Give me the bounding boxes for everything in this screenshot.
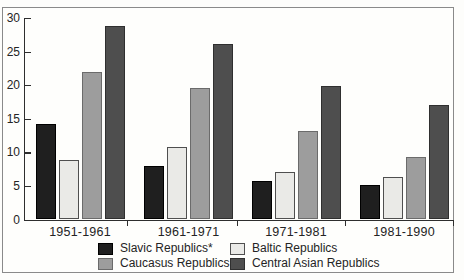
legend-label: Caucasus Republics — [120, 257, 229, 270]
legend-label: Baltic Republics — [252, 242, 337, 255]
legend-swatch — [98, 243, 113, 255]
legend-swatch — [98, 258, 113, 270]
bar-chart-figure: 0510152025301951-19611961-19711971-19811… — [0, 0, 464, 280]
legend-label: Slavic Republics* — [120, 242, 213, 255]
chart-legend: Slavic Republics*Baltic RepublicsCaucasu… — [0, 0, 464, 280]
legend-swatch — [230, 243, 245, 255]
legend-label: Central Asian Republics — [252, 257, 379, 270]
legend-swatch — [230, 258, 245, 270]
